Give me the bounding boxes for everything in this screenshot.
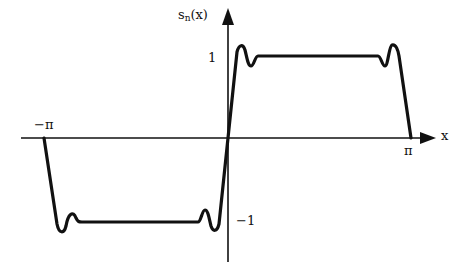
y-axis-label-main: s (178, 7, 185, 22)
y-tick-neg-1: −1 (236, 214, 255, 227)
x-axis-arrow-icon (420, 132, 436, 144)
x-tick-neg-pi: −π (34, 118, 53, 131)
y-axis-label-arg: (x) (190, 7, 207, 22)
y-axis-label: sn(x) (178, 8, 208, 23)
x-axis-label: x (441, 129, 448, 142)
y-tick-1: 1 (208, 51, 216, 64)
y-axis-arrow-icon (222, 8, 234, 25)
x-tick-pi: π (404, 144, 413, 157)
plot-area (0, 0, 467, 274)
